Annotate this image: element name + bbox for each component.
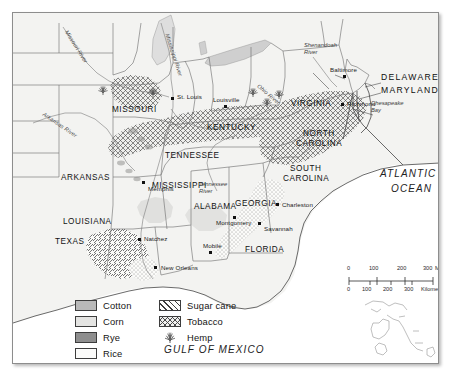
citydot-savannah — [258, 222, 261, 225]
scale-km-tick-1: 100 — [362, 286, 371, 292]
scale-miles-tick-2: 200 — [397, 265, 406, 271]
legend-label-hemp: Hemp — [187, 332, 213, 343]
hemp-icon — [159, 332, 181, 343]
legend-item-corn: Corn — [75, 313, 132, 329]
map-legend: Cotton Corn Rye Rice Sugar ca — [75, 297, 247, 364]
scale-miles-tick-1: 100 — [369, 265, 378, 271]
citydot-richmond — [341, 103, 344, 106]
citydot-montgomery — [233, 216, 236, 219]
citydot-natchez — [138, 238, 141, 241]
citydot-baltimore — [343, 75, 346, 78]
map-frame: ATLANTIC OCEAN TEXAS ARKANSAS LOUISIANA … — [12, 12, 439, 364]
legend-swatch-cotton — [75, 300, 97, 311]
legend-label-rice: Rice — [103, 348, 122, 359]
scale-km-unit: Kilometers — [421, 286, 439, 292]
legend-label-cotton: Cotton — [103, 300, 132, 311]
legend-item-tobacco: Tobacco — [159, 313, 236, 329]
citydot-new-orleans — [154, 266, 157, 269]
legend-swatch-sugar-cane — [159, 300, 181, 311]
citydot-louisville — [224, 105, 227, 108]
scale-miles-unit: Miles — [435, 265, 439, 271]
legend-item-hemp: Hemp — [159, 329, 236, 345]
legend-label-tobacco: Tobacco — [187, 316, 223, 327]
legend-swatch-corn — [75, 316, 97, 327]
citydot-charleston — [276, 203, 279, 206]
historical-agriculture-map: ATLANTIC OCEAN TEXAS ARKANSAS LOUISIANA … — [0, 0, 454, 379]
legend-column-left: Cotton Corn Rye Rice — [75, 297, 132, 361]
legend-label-corn: Corn — [103, 316, 124, 327]
legend-swatch-rice — [75, 348, 97, 359]
scale-miles-tick-3: 300 — [423, 265, 432, 271]
legend-swatch-tobacco — [159, 316, 181, 327]
citydot-memphis — [142, 181, 145, 184]
citydot-mobile — [209, 251, 212, 254]
citydot-st-louis — [171, 97, 174, 100]
legend-label-rye: Rye — [103, 332, 120, 343]
legend-item-rice: Rice — [75, 345, 132, 361]
scale-km-tick-2: 200 — [383, 286, 392, 292]
scale-bar: 0 100 200 300 Miles 0 100 200 300 Kilome… — [343, 253, 439, 293]
legend-item-rye: Rye — [75, 329, 132, 345]
scale-km-tick-3: 300 — [404, 286, 413, 292]
legend-swatch-rye — [75, 332, 97, 343]
legend-column-right: Sugar cane Tobacco — [159, 297, 236, 345]
scale-km-tick-0: 0 — [347, 286, 350, 292]
scale-miles-tick-0: 0 — [347, 265, 350, 271]
legend-item-sugar-cane: Sugar cane — [159, 297, 236, 313]
legend-label-sugar-cane: Sugar cane — [187, 300, 236, 311]
legend-item-cotton: Cotton — [75, 297, 132, 313]
